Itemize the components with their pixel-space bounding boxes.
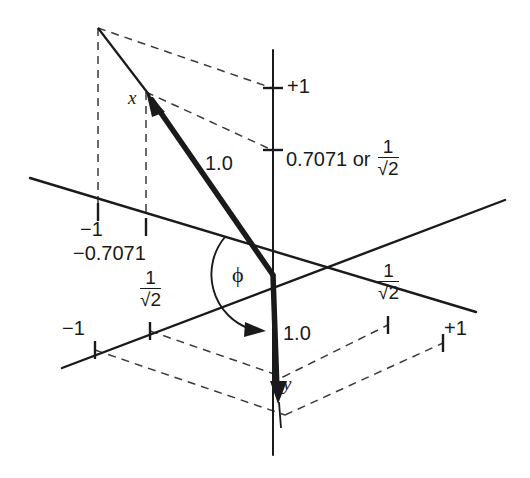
one-over-sqrt-two-fraction: 1 √2	[378, 137, 399, 180]
tick-marks	[95, 88, 443, 359]
z-value-text: 0.7071 or	[286, 149, 371, 169]
figure-canvas: x y ϕ 1.0 1.0 +1 0.7071 or 1 √2 −1 −0.70…	[0, 0, 530, 478]
fraction-denominator: √2	[378, 158, 399, 180]
radicand: 2	[388, 282, 399, 303]
lower-left-fraction-label: 1 √2	[140, 269, 161, 312]
fraction-numerator: 1	[140, 268, 161, 289]
radical-icon: √	[140, 289, 150, 310]
z-axis-value-label: 0.7071 or 1 √2	[286, 138, 399, 181]
fraction-numerator: 1	[378, 137, 399, 158]
one-over-sqrt-two-fraction-right: 1 √2	[378, 261, 399, 304]
lower-right-fraction-label: 1 √2	[378, 262, 399, 305]
vector-x-magnitude-label: 1.0	[205, 153, 233, 173]
y-axis-label: y	[283, 374, 291, 393]
angle-phi-label: ϕ	[232, 264, 244, 286]
y-label-leader	[279, 402, 281, 428]
angle-arc-arrowhead	[244, 322, 266, 337]
angle-arc-phi	[211, 237, 250, 329]
fraction-numerator: 1	[378, 261, 399, 282]
radicand: 2	[150, 289, 161, 310]
z-axis-plus-one-label: +1	[287, 76, 310, 96]
vector-y-magnitude-label: 1.0	[283, 323, 311, 343]
fraction-denominator: √2	[378, 282, 399, 304]
one-over-sqrt-two-fraction-left: 1 √2	[140, 268, 161, 311]
dash-top-to-z1	[98, 28, 272, 88]
upper-left-neg-one-label: −1	[80, 219, 103, 239]
x-axis-label: x	[128, 88, 136, 107]
upper-left-neg-0707-label: −0.7071	[73, 243, 146, 263]
dash-base-c	[150, 331, 283, 377]
dash-base-a	[95, 350, 285, 415]
vector-x-shaft	[152, 100, 273, 275]
radicand: 2	[388, 158, 399, 179]
radical-icon: √	[378, 158, 388, 179]
radical-icon: √	[378, 282, 388, 303]
lower-left-neg-one-label: −1	[62, 318, 85, 338]
lower-right-plus-one-label: +1	[444, 318, 467, 338]
fraction-denominator: √2	[140, 289, 161, 311]
edge-corner-to-tip	[98, 28, 150, 96]
dash-base-b	[285, 343, 443, 415]
